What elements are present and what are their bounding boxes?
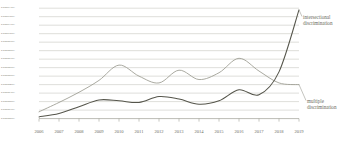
x-axis-tick-label: 2009 <box>94 129 103 135</box>
series-label-intersectional-discrimination: intersectional discrimination <box>303 14 332 26</box>
x-axis-labels: 2006200720082009201020112012201320142015… <box>0 0 351 149</box>
x-axis-tick-label: 2018 <box>274 129 283 135</box>
x-axis-tick-label: 2007 <box>54 129 63 135</box>
x-axis-tick-label: 2011 <box>134 129 143 135</box>
series-label-intersectional-line1: intersectional <box>303 14 330 20</box>
x-axis-tick-label: 2006 <box>34 129 43 135</box>
x-axis-tick-label: 2017 <box>254 129 263 135</box>
series-label-intersectional-line2: discrimination <box>303 20 332 26</box>
x-axis-tick-label: 2010 <box>114 129 123 135</box>
x-axis-tick-label: 2019 <box>294 129 303 135</box>
x-axis-tick-label: 2008 <box>74 129 83 135</box>
series-label-multiple-line2: discrimination <box>307 104 336 110</box>
x-axis-tick-label: 2013 <box>174 129 183 135</box>
x-axis-tick-label: 2016 <box>234 129 243 135</box>
chart-container: 0.0000130%0.0000120%0.0000110%0.0000100%… <box>0 0 351 149</box>
series-label-multiple-line1: multiple <box>307 98 324 104</box>
series-label-multiple-discrimination: multiple discrimination <box>307 98 336 110</box>
x-axis-tick-label: 2015 <box>214 129 223 135</box>
x-axis-tick-label: 2012 <box>154 129 163 135</box>
x-axis-tick-label: 2014 <box>194 129 203 135</box>
